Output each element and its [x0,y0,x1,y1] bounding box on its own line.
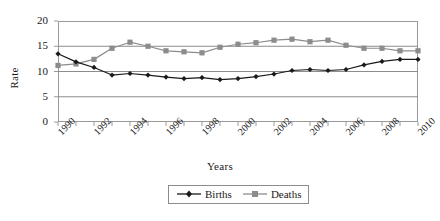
legend-marker-births-icon [176,188,202,200]
legend-entry-births: Births [176,188,232,200]
y-tick-label: 20 [26,15,48,26]
y-tick-marks [54,21,58,122]
legend-entry-deaths: Deaths [242,188,302,200]
legend-label-births: Births [205,188,232,200]
chart-figure: Rate 05101520 19901992199419961998200020… [0,0,440,221]
y-tick-label: 15 [26,40,48,51]
series-line-births [55,51,420,82]
y-tick-label: 0 [26,116,48,127]
gridlines [58,46,418,97]
x-axis-title: Years [0,160,440,172]
legend-marker-deaths-icon [242,188,268,200]
y-tick-label: 5 [26,91,48,102]
legend-label-deaths: Deaths [271,188,302,200]
y-tick-label: 10 [26,66,48,77]
chart-legend: Births Deaths [168,185,309,204]
series-line-deaths [55,37,420,68]
